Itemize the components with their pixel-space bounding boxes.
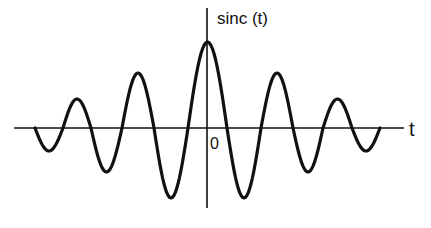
origin-label: 0 [210,135,219,152]
x-axis-label: t [409,118,415,140]
sinc-diagram: sinc (t) t 0 [0,0,431,228]
y-axis-label: sinc (t) [217,9,268,28]
